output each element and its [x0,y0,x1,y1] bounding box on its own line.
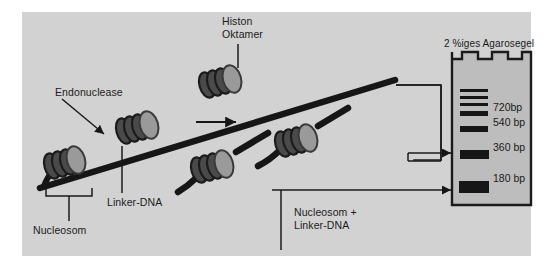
gel-label-540: 540 bp [493,116,525,128]
gel-label-360: 360 bp [493,141,525,153]
gel-band-180 [459,181,489,193]
connector-upper-bracket [396,85,441,161]
label-histon-oktamer: Histon Oktamer [222,15,263,40]
gel-band-360 [460,150,489,159]
gel-band [460,96,488,99]
bracket-nucleosom [46,188,92,196]
gel-label-720: 720bp [493,101,522,113]
label-gel-title: 2 %iges Agarosegel [444,38,534,51]
gel-band-720 [460,111,488,116]
label-nucleosom: Nucleosom [33,224,86,237]
gel-label-180: 180 bp [493,172,525,184]
label-linker-dna: Linker-DNA [107,196,162,209]
gel-band [460,89,488,92]
leader-endonuclease [62,99,104,134]
nucleosome-2 [113,109,161,146]
gel-band [460,103,488,106]
gel-band-540 [460,126,488,132]
label-nucleosom-plus-linker-dna: Nucleosom + Linker-DNA [294,206,357,231]
label-endonuclease: Endonuclease [55,86,123,99]
figure-root: Histon Oktamer Endonuclease Linker-DNA N… [0,0,553,274]
nucleosome-3 [196,63,244,100]
